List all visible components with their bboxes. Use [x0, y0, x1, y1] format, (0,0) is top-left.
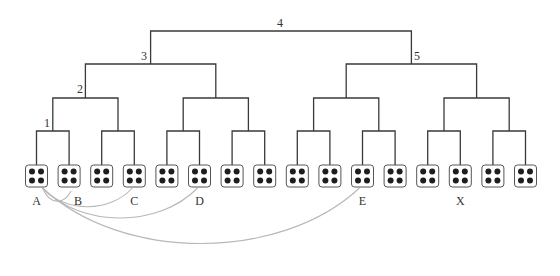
- pip-dot-icon: [201, 178, 207, 184]
- leaf-node: [417, 165, 439, 187]
- level-labels: 12345: [44, 16, 420, 130]
- level-label: 2: [77, 82, 83, 96]
- pip-dot-icon: [331, 178, 337, 184]
- level-label: 5: [414, 49, 420, 63]
- pip-dot-icon: [355, 178, 361, 184]
- tree-edge: [151, 31, 412, 64]
- leaf-node: [221, 165, 243, 187]
- pip-dot-icon: [462, 169, 468, 175]
- pip-dot-icon: [420, 178, 426, 184]
- leaf-node: [156, 165, 178, 187]
- die-box-icon: [319, 165, 341, 187]
- die-box-icon: [449, 165, 471, 187]
- pip-dot-icon: [388, 169, 394, 175]
- pip-dot-icon: [420, 169, 426, 175]
- leaf-label-e: E: [359, 194, 366, 208]
- tree-edge: [102, 131, 135, 165]
- tree-edge: [314, 98, 379, 131]
- pip-dot-icon: [364, 169, 370, 175]
- pip-dot-icon: [192, 178, 198, 184]
- leaf-label-b: B: [74, 194, 82, 208]
- tree-edge: [363, 131, 396, 165]
- pip-dot-icon: [290, 178, 296, 184]
- leaf-node: [123, 165, 145, 187]
- pip-dot-icon: [299, 169, 305, 175]
- level-label: 1: [44, 116, 50, 130]
- leaf-node: [515, 165, 537, 187]
- leaf-label-a: A: [32, 194, 41, 208]
- tree-edge: [428, 131, 461, 165]
- tree-edge: [85, 64, 215, 98]
- pip-dot-icon: [527, 178, 533, 184]
- pip-dot-icon: [257, 169, 263, 175]
- die-box-icon: [156, 165, 178, 187]
- pip-dot-icon: [322, 169, 328, 175]
- pip-dot-icon: [453, 178, 459, 184]
- die-box-icon: [352, 165, 374, 187]
- die-box-icon: [286, 165, 308, 187]
- pip-dot-icon: [201, 169, 207, 175]
- pip-dot-icon: [322, 178, 328, 184]
- pip-dot-icon: [234, 169, 240, 175]
- die-box-icon: [58, 165, 80, 187]
- pip-dot-icon: [71, 178, 77, 184]
- pip-dot-icon: [518, 178, 524, 184]
- leaf-node: [352, 165, 374, 187]
- die-box-icon: [91, 165, 113, 187]
- leaf-nodes: [26, 165, 537, 187]
- leaf-node: [286, 165, 308, 187]
- leaf-node: [384, 165, 406, 187]
- leaf-node: [26, 165, 48, 187]
- tree-edge: [183, 98, 248, 131]
- leaf-node: [482, 165, 504, 187]
- pip-dot-icon: [299, 178, 305, 184]
- pip-dot-icon: [94, 178, 100, 184]
- leaf-node: [91, 165, 113, 187]
- pip-dot-icon: [462, 178, 468, 184]
- pip-dot-icon: [518, 169, 524, 175]
- pip-dot-icon: [485, 178, 491, 184]
- pip-dot-icon: [136, 169, 142, 175]
- pip-dot-icon: [168, 178, 174, 184]
- tree-diagram: 12345 ABCDEX: [0, 0, 560, 276]
- pip-dot-icon: [127, 178, 133, 184]
- pip-dot-icon: [94, 169, 100, 175]
- tree-edge: [297, 131, 330, 165]
- pip-dot-icon: [159, 178, 165, 184]
- tree-edge: [444, 98, 509, 131]
- pip-dot-icon: [192, 169, 198, 175]
- die-box-icon: [123, 165, 145, 187]
- pip-dot-icon: [168, 169, 174, 175]
- die-box-icon: [482, 165, 504, 187]
- pip-dot-icon: [234, 178, 240, 184]
- pip-dot-icon: [38, 169, 44, 175]
- pip-dot-icon: [290, 169, 296, 175]
- die-box-icon: [189, 165, 211, 187]
- pip-dot-icon: [103, 169, 109, 175]
- pip-dot-icon: [136, 178, 142, 184]
- leaf-node: [58, 165, 80, 187]
- leaf-label-c: C: [130, 194, 138, 208]
- pip-dot-icon: [225, 178, 231, 184]
- leaf-node: [189, 165, 211, 187]
- leaf-node: [319, 165, 341, 187]
- leaf-label-d: D: [195, 194, 204, 208]
- tree-edge: [167, 131, 200, 165]
- pip-dot-icon: [355, 169, 361, 175]
- die-box-icon: [221, 165, 243, 187]
- level-label: 4: [277, 16, 283, 30]
- die-box-icon: [384, 165, 406, 187]
- leaf-node: [254, 165, 276, 187]
- pip-dot-icon: [29, 178, 35, 184]
- pip-dot-icon: [429, 169, 435, 175]
- tree-edge: [346, 64, 476, 98]
- tree-edge: [53, 98, 118, 131]
- pip-dot-icon: [159, 169, 165, 175]
- pip-dot-icon: [266, 178, 272, 184]
- tree-edge: [37, 131, 70, 165]
- tree-edge: [493, 131, 526, 165]
- pip-dot-icon: [127, 169, 133, 175]
- leaf-label-x: X: [456, 194, 465, 208]
- level-label: 3: [141, 49, 147, 63]
- pip-dot-icon: [38, 178, 44, 184]
